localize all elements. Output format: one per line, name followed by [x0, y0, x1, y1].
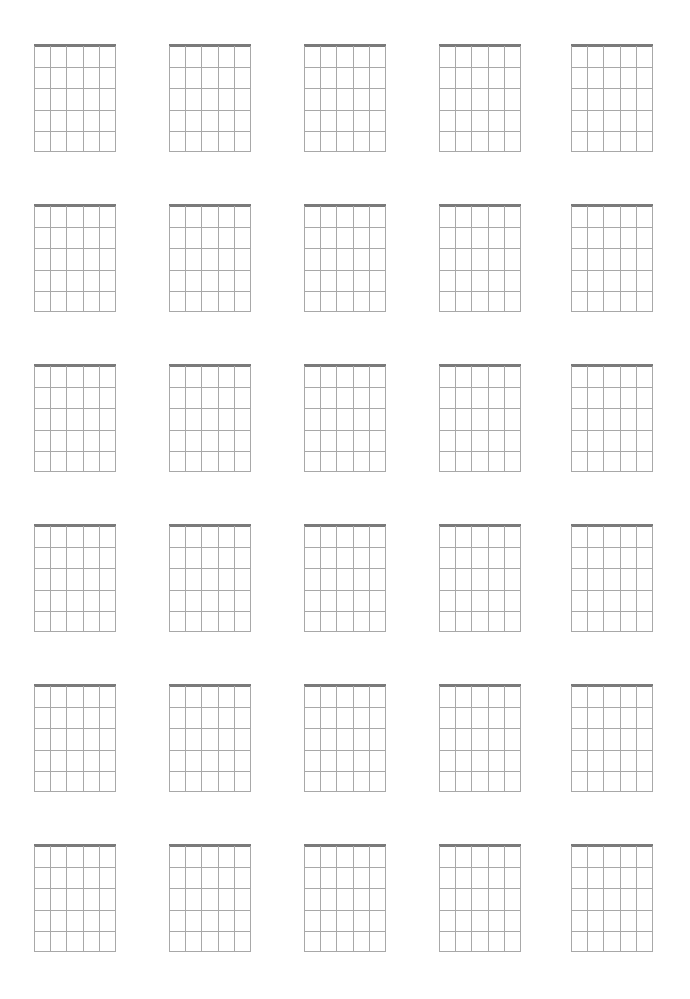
chord-diagram-5-5 [571, 684, 653, 792]
string-line [471, 206, 472, 311]
string-line [201, 46, 202, 151]
fret-line [35, 387, 115, 388]
fret-line [305, 430, 385, 431]
string-line [471, 686, 472, 791]
string-line [636, 686, 637, 791]
string-line [66, 686, 67, 791]
fret-line [170, 867, 250, 868]
fret-line [440, 88, 520, 89]
string-line [99, 526, 100, 631]
string-line [320, 46, 321, 151]
string-line [336, 366, 337, 471]
string-line [218, 846, 219, 951]
fret-line [440, 248, 520, 249]
fret-line [170, 547, 250, 548]
chord-diagram-3-1 [34, 364, 116, 472]
string-line [636, 206, 637, 311]
string-line [66, 46, 67, 151]
chord-diagram-2-2 [169, 204, 251, 312]
fret-line [305, 771, 385, 772]
fret-line [170, 67, 250, 68]
string-line [353, 366, 354, 471]
fret-line [170, 888, 250, 889]
string-line [504, 526, 505, 631]
string-line [218, 686, 219, 791]
fret-line [572, 227, 652, 228]
fret-line [170, 387, 250, 388]
chord-diagram-6-5 [571, 844, 653, 952]
string-line [488, 206, 489, 311]
fret-line [440, 568, 520, 569]
fret-line [572, 910, 652, 911]
fret-line [440, 611, 520, 612]
string-line [185, 366, 186, 471]
string-line [603, 366, 604, 471]
string-line [50, 846, 51, 951]
string-line [636, 846, 637, 951]
fret-line [572, 291, 652, 292]
fret-line [305, 227, 385, 228]
string-line [234, 366, 235, 471]
fret-line [35, 888, 115, 889]
fret-line [35, 248, 115, 249]
fret-line [170, 131, 250, 132]
string-line [353, 846, 354, 951]
fret-line [170, 451, 250, 452]
string-line [455, 686, 456, 791]
fret-line [170, 88, 250, 89]
string-line [83, 206, 84, 311]
string-line [201, 686, 202, 791]
fret-line [35, 451, 115, 452]
fret-line [35, 867, 115, 868]
fret-line [170, 227, 250, 228]
chord-diagram-1-2 [169, 44, 251, 152]
string-line [320, 366, 321, 471]
chord-diagram-5-2 [169, 684, 251, 792]
fret-line [35, 430, 115, 431]
fret-line [440, 750, 520, 751]
fret-line [305, 707, 385, 708]
fret-line [35, 771, 115, 772]
chord-diagram-3-3 [304, 364, 386, 472]
string-line [587, 46, 588, 151]
fret-line [305, 131, 385, 132]
fretboard-grid [34, 366, 116, 472]
fretboard-grid [571, 46, 653, 152]
string-line [369, 686, 370, 791]
string-line [50, 686, 51, 791]
fret-line [305, 728, 385, 729]
string-line [185, 526, 186, 631]
string-line [488, 846, 489, 951]
string-line [369, 366, 370, 471]
fret-line [305, 867, 385, 868]
fret-line [170, 270, 250, 271]
string-line [488, 526, 489, 631]
string-line [636, 366, 637, 471]
chord-diagram-4-3 [304, 524, 386, 632]
fret-line [440, 387, 520, 388]
string-line [504, 686, 505, 791]
fret-line [305, 408, 385, 409]
string-line [66, 526, 67, 631]
fret-line [572, 451, 652, 452]
fret-line [440, 451, 520, 452]
fret-line [305, 248, 385, 249]
fretboard-grid [34, 846, 116, 952]
fretboard-grid [571, 206, 653, 312]
fret-line [305, 451, 385, 452]
fret-line [305, 67, 385, 68]
string-line [587, 206, 588, 311]
fret-line [572, 590, 652, 591]
chord-diagram-5-3 [304, 684, 386, 792]
fret-line [572, 707, 652, 708]
fret-line [440, 430, 520, 431]
chord-diagram-2-4 [439, 204, 521, 312]
fret-line [305, 270, 385, 271]
fret-line [35, 408, 115, 409]
string-line [587, 526, 588, 631]
string-line [369, 206, 370, 311]
fretboard-grid [304, 846, 386, 952]
fret-line [572, 771, 652, 772]
fret-line [35, 88, 115, 89]
string-line [99, 846, 100, 951]
